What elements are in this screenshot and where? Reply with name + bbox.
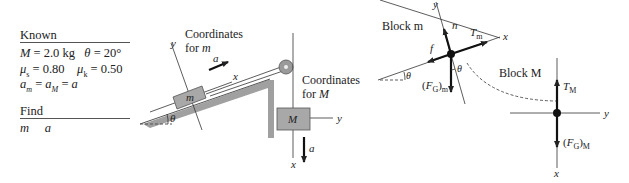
axes-m [150,43,232,130]
block-m-label: m [186,91,194,103]
block-M-label: M [287,113,298,125]
fbd-m-axis-y: y [432,0,438,10]
axis-y-M: y [336,112,342,124]
axis-y-m: y [170,37,176,49]
fbd-m-title: Block m [382,19,424,33]
fbd-m-axis-x: x [502,30,508,42]
friction-label: f [430,42,435,54]
accel-label-M: a [309,142,315,154]
accel-label-m: a [213,52,219,64]
fbd-M-axis-y: y [603,107,609,119]
physics-diagram: m x y θ Coordinates for m a M y x Coordi… [0,0,629,183]
tension-m-vector [451,42,487,54]
coords-M-label-1: Coordinates [302,73,360,87]
angle-theta-label: θ [170,112,176,124]
gravity-m-label: (FG)m [422,79,449,94]
pulley [279,60,293,74]
tension-m-label: Tm [470,26,483,41]
axis-x-m: x [232,70,238,82]
fbd-M-point [553,109,561,117]
fbd-M-title: Block M [499,66,542,80]
block-M: M [277,108,310,130]
fbd-m-angle-left: θ [406,70,411,81]
coords-M-label-2: for M [302,87,330,101]
coords-m-label-1: Coordinates [185,27,243,41]
fbd-m-point [447,50,455,58]
fbd-m-angle-right: θ [457,63,462,74]
normal-force-label: n [452,19,458,31]
axis-x-M: x [290,158,296,170]
accel-arrow-m [209,62,228,70]
coords-m-label-2: for m [185,41,211,55]
fbd-M-axis-x: x [553,167,559,179]
tension-M-label: TM [563,80,576,95]
gravity-M-label: (FG)M [563,136,590,151]
